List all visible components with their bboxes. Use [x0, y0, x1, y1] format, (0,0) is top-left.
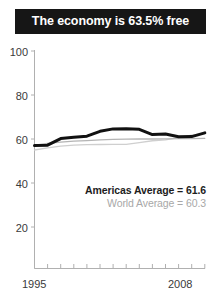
- x-tick-marks: [35, 264, 205, 269]
- legend-americas-average: Americas Average = 61.6: [40, 184, 206, 196]
- legend-world-average: World Average = 60.3: [40, 197, 206, 209]
- chart-figure: The economy is 63.5% free: [0, 0, 216, 303]
- y-tick-marks: [31, 51, 35, 227]
- page-title: The economy is 63.5% free: [32, 15, 189, 28]
- y-tick-label-20: 20: [0, 223, 28, 234]
- chart-title-bar: The economy is 63.5% free: [15, 9, 206, 34]
- plot-area: 100 80 60 40 20 1995 2008 Americas Avera…: [0, 36, 216, 303]
- plot-svg: [0, 36, 216, 303]
- y-tick-label-80: 80: [0, 91, 28, 102]
- y-tick-label-100: 100: [0, 47, 28, 58]
- y-tick-label-40: 40: [0, 179, 28, 190]
- x-tick-label-end: 2008: [168, 279, 192, 290]
- y-tick-label-60: 60: [0, 135, 28, 146]
- series-line-americas: [35, 129, 205, 146]
- x-tick-label-start: 1995: [22, 279, 46, 290]
- chart-legend: Americas Average = 61.6 World Average = …: [40, 184, 206, 209]
